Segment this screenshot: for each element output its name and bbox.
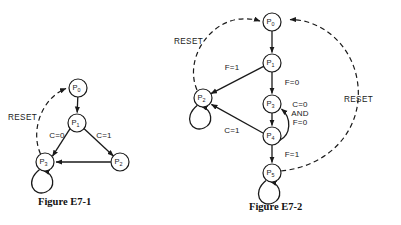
state-diagram-canvas: P0 P1 P2 P3 C=0 C=1 RESET (0, 0, 401, 225)
edge-label-f1-p4p5: F=1 (285, 150, 300, 159)
edge-label-f0-p1p3: F=0 (285, 78, 300, 87)
figure-page: P0 P1 P2 P3 C=0 C=1 RESET (0, 0, 401, 225)
reset-label-e7-2-left: RESET (174, 37, 203, 46)
edge-label-f0-cond: F=0 (293, 118, 308, 127)
reset-label-e7-2-right: RESET (344, 95, 373, 104)
reset-label-e7-1: RESET (8, 113, 37, 122)
edge-label-and-cond: AND (291, 109, 309, 118)
edge-reset-p3-p0 (37, 89, 66, 155)
edge-reset-p2-p0 (193, 19, 260, 90)
edge-p0-p1 (77, 97, 78, 113)
edge-label-c1-p4p2: C=1 (224, 126, 240, 135)
edge-label-c1: C=1 (96, 131, 112, 140)
figure-e7-1-group: P0 P1 P2 P3 C=0 C=1 RESET (8, 79, 129, 193)
edge-p2-self-loop (190, 105, 211, 129)
figure-e7-2-group: P0 P1 P2 P3 P4 P5 F=1 F (174, 13, 373, 204)
edge-label-c0: C=0 (49, 131, 65, 140)
edge-label-f1-p1p2: F=1 (225, 63, 240, 72)
edge-label-c0-cond: C=0 (292, 100, 308, 109)
figure-caption-e7-2: Figure E7-2 (249, 201, 302, 212)
figure-caption-e7-1: Figure E7-1 (38, 196, 91, 207)
edge-p3-self-loop (32, 170, 53, 193)
